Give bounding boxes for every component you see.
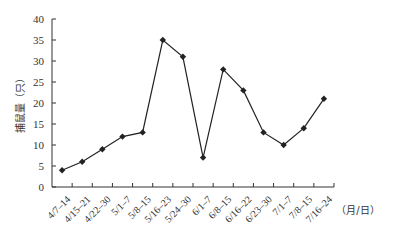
data-point-marker [139,129,145,135]
y-tick-label: 0 [39,181,45,193]
y-tick-label: 10 [33,139,45,151]
y-axis-title: 捕鼠量（只） [14,73,26,133]
y-tick-label: 35 [33,34,45,46]
y-tick-label: 30 [33,55,45,67]
data-point-marker [59,167,65,173]
y-tick-label: 5 [39,160,45,172]
data-point-marker [260,129,266,135]
data-point-marker [79,159,85,165]
y-axis: 0510152025303540 [33,13,56,193]
y-tick-label: 15 [33,118,45,130]
y-tick-label: 25 [33,76,45,88]
y-tick-label: 40 [33,13,45,25]
x-axis-title: （月/日） [336,205,379,216]
data-point-marker [99,146,105,152]
y-tick-label: 20 [33,97,45,109]
data-point-marker [200,154,206,160]
data-point-marker [119,133,125,139]
line-chart: 0510152025303540 4/7–144/15–214/22–305/1… [0,0,407,235]
data-series [59,37,327,174]
x-axis: 4/7–144/15–214/22–305/1–75/8–155/16–235/… [45,183,334,225]
